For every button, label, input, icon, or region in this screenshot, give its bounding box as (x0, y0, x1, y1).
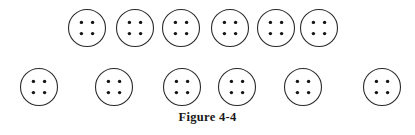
figure-illustration: Figure 4-4 (0, 0, 415, 135)
button-rim (117, 10, 154, 47)
button-hole (296, 91, 299, 94)
button-hole (118, 91, 121, 94)
button-8-icon (96, 69, 133, 106)
button-hole (139, 32, 142, 35)
button-hole (375, 91, 378, 94)
button-hole (91, 32, 94, 35)
button-hole (241, 91, 244, 94)
button-hole (185, 21, 188, 24)
button-hole (32, 80, 35, 83)
button-rim (164, 69, 201, 106)
button-hole (280, 32, 283, 35)
button-rim (258, 10, 295, 47)
button-rim (96, 69, 133, 106)
button-rim (285, 69, 322, 106)
button-hole (312, 21, 315, 24)
button-rim (364, 69, 401, 106)
button-5-icon (258, 10, 295, 47)
button-hole (296, 80, 299, 83)
button-hole (323, 32, 326, 35)
button-hole (230, 91, 233, 94)
button-hole (234, 32, 237, 35)
button-hole (43, 80, 46, 83)
button-rim (301, 10, 338, 47)
button-hole (269, 32, 272, 35)
button-hole (128, 21, 131, 24)
button-rim (212, 10, 249, 47)
button-hole (175, 80, 178, 83)
button-rim (219, 69, 256, 106)
button-hole (118, 80, 121, 83)
button-hole (174, 21, 177, 24)
button-hole (80, 21, 83, 24)
button-hole (174, 32, 177, 35)
button-hole (223, 32, 226, 35)
button-11-icon (285, 69, 322, 106)
button-hole (280, 21, 283, 24)
button-hole (186, 91, 189, 94)
button-hole (107, 91, 110, 94)
bottom-row (21, 69, 401, 106)
button-hole (307, 80, 310, 83)
button-1-icon (69, 10, 106, 47)
button-hole (269, 21, 272, 24)
top-row (69, 10, 338, 47)
button-hole (386, 91, 389, 94)
button-hole (186, 80, 189, 83)
button-rim (163, 10, 200, 47)
button-hole (128, 32, 131, 35)
button-hole (307, 91, 310, 94)
button-6-icon (301, 10, 338, 47)
button-hole (386, 80, 389, 83)
button-hole (223, 21, 226, 24)
button-3-icon (163, 10, 200, 47)
button-rim (21, 69, 58, 106)
button-2-icon (117, 10, 154, 47)
button-hole (234, 21, 237, 24)
button-hole (312, 32, 315, 35)
button-4-icon (212, 10, 249, 47)
button-hole (375, 80, 378, 83)
button-hole (230, 80, 233, 83)
button-hole (43, 91, 46, 94)
button-hole (107, 80, 110, 83)
button-7-icon (21, 69, 58, 106)
button-rim (69, 10, 106, 47)
button-hole (323, 21, 326, 24)
button-hole (32, 91, 35, 94)
figure-caption: Figure 4-4 (0, 110, 415, 125)
button-hole (91, 21, 94, 24)
button-hole (185, 32, 188, 35)
button-hole (175, 91, 178, 94)
button-hole (139, 21, 142, 24)
button-hole (80, 32, 83, 35)
button-12-icon (364, 69, 401, 106)
button-10-icon (219, 69, 256, 106)
button-hole (241, 80, 244, 83)
button-9-icon (164, 69, 201, 106)
